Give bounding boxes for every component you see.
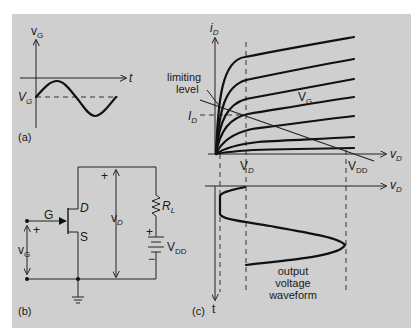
gate-terminal [25,219,29,223]
gate-label: G [44,208,53,222]
output-plus-sign: + [101,169,108,183]
fet-amplifier-figure: vG t VG (a) [0,0,419,336]
panel-a-label: (a) [18,131,31,143]
output-caption-line1: output [278,265,309,277]
source-label: S [80,230,88,244]
input-plus-sign: + [33,223,40,237]
output-caption-line2: voltage [275,277,310,289]
limiting-label-line1: limiting [167,71,201,83]
limiting-label-line2: level [176,83,199,95]
drain-label: D [80,201,89,215]
supply-plus-sign: + [146,225,153,239]
supply-minus-sign: − [148,252,155,266]
output-caption-line3: waveform [268,289,317,301]
ground-terminal [25,277,29,281]
panel-b-label: (b) [18,305,31,317]
source-node [76,277,80,281]
panel-c-label: (c) [192,305,205,317]
